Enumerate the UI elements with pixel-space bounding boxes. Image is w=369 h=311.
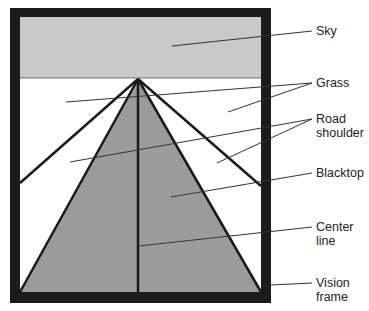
sky-area (20, 17, 261, 78)
label-sky: Sky (316, 24, 337, 38)
label-grass: Grass (316, 76, 349, 90)
leader-vision-frame (271, 283, 312, 285)
label-blacktop: Blacktop (316, 166, 364, 180)
road-perspective-diagram (0, 0, 369, 311)
label-vision-frame: Vision frame (316, 276, 350, 304)
label-road-shoulder: Road shoulder (316, 112, 364, 140)
label-center-line: Center line (316, 220, 354, 248)
